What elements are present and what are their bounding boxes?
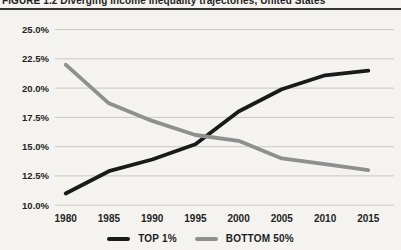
title-rule [0, 8, 401, 10]
x-tick-label: 1995 [184, 213, 207, 224]
y-tick-label: 17.5% [22, 112, 49, 123]
y-tick-label: 12.5% [22, 170, 49, 181]
x-axis-tick-labels: 19801985199019952000200520102015 [55, 213, 380, 224]
y-axis-tick-labels: 10.0%12.5%15.0%17.5%20.0%22.5%25.0% [22, 24, 49, 211]
x-tick-label: 2000 [227, 213, 250, 224]
x-tick-label: 2005 [271, 213, 294, 224]
x-tick-label: 2010 [314, 213, 337, 224]
series-line-top-1- [66, 71, 369, 194]
income-shares-line-chart: 10.0%12.5%15.0%17.5%20.0%22.5%25.0% 1980… [0, 0, 401, 250]
x-tick-label: 2015 [357, 213, 380, 224]
y-tick-label: 22.5% [22, 53, 49, 64]
legend-item-bottom50: BOTTOM 50% [195, 233, 294, 244]
y-tick-label: 25.0% [22, 24, 49, 35]
gridlines [55, 30, 394, 206]
x-tick-label: 1990 [141, 213, 164, 224]
x-tick-label: 1980 [55, 213, 78, 224]
series-lines [66, 65, 369, 194]
top1-legend-label: TOP 1% [138, 233, 177, 244]
y-tick-label: 10.0% [22, 200, 49, 211]
x-tick-label: 1985 [98, 213, 121, 224]
bottom50-legend-label: BOTTOM 50% [226, 233, 294, 244]
chart-legend: TOP 1% BOTTOM 50% [0, 233, 401, 244]
legend-item-top1: TOP 1% [107, 233, 177, 244]
scanned-book-page: FIGURE 1.2 Diverging income inequality t… [0, 0, 401, 250]
figure-title-clip: FIGURE 1.2 Diverging income inequality t… [0, 0, 401, 7]
bottom50-line-swatch [195, 237, 218, 241]
top1-line-swatch [107, 237, 130, 241]
y-tick-label: 15.0% [22, 141, 49, 152]
y-tick-label: 20.0% [22, 83, 49, 94]
figure-title: FIGURE 1.2 Diverging income inequality t… [2, 0, 325, 6]
